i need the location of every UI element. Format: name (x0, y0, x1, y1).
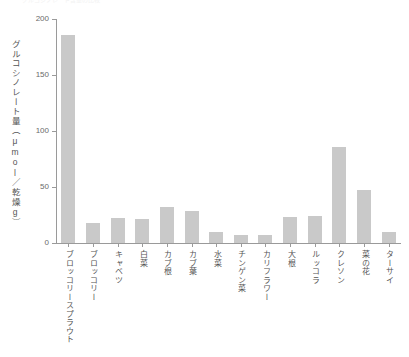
x-axis-labels: ブロッコリースプラウトブロッコリーキャベツ白菜カブ根カブ葉水菜チンゲン菜カリフラ… (56, 250, 401, 356)
bar[interactable] (258, 235, 272, 243)
bar[interactable] (357, 190, 371, 243)
bar[interactable] (234, 235, 248, 243)
y-axis-title: グルコシノレート量（μmol／乾燥g） (9, 40, 35, 240)
bar[interactable] (332, 147, 346, 243)
x-axis-label: キャベツ (113, 250, 123, 284)
x-axis-tick (118, 243, 119, 247)
y-axis-tick: 200 (52, 19, 56, 20)
bar[interactable] (111, 218, 125, 243)
bar[interactable] (308, 216, 322, 243)
x-axis-label: 白菜 (137, 250, 147, 267)
y-axis-tick: 100 (52, 131, 56, 132)
x-axis-tick (192, 243, 193, 247)
y-axis-tick-label: 150 (36, 70, 49, 79)
x-axis-label: ブロッコリー (88, 250, 98, 301)
x-axis-label: ブロッコリースプラウト (63, 250, 73, 344)
x-axis-tick (339, 243, 340, 247)
y-axis-tick-label: 50 (40, 182, 49, 191)
x-axis-label: ルッコラ (310, 250, 320, 284)
bar[interactable] (382, 232, 396, 243)
x-axis-label: カブ根 (162, 250, 172, 276)
x-axis-tick (93, 243, 94, 247)
x-axis-tick (315, 243, 316, 247)
y-axis-tick-label: 200 (36, 14, 49, 23)
x-axis-label: 大根 (285, 250, 295, 267)
y-axis-line (56, 19, 57, 243)
x-axis-tick (68, 243, 69, 247)
x-axis-label: カリフラワー (260, 250, 270, 301)
x-axis-tick (389, 243, 390, 247)
clipped-header-text: グルコシノレート含量の比較 (22, 0, 202, 4)
x-axis-tick (241, 243, 242, 247)
x-axis-line (56, 243, 401, 244)
x-axis-tick (216, 243, 217, 247)
y-axis-title-text: グルコシノレート量（μmol／乾燥g） (9, 40, 20, 227)
y-axis-tick: 150 (52, 75, 56, 76)
x-axis-tick (142, 243, 143, 247)
x-axis-label: カブ葉 (187, 250, 197, 276)
bar[interactable] (283, 217, 297, 243)
bar[interactable] (86, 223, 100, 243)
chart-figure: グルコシノレート含量の比較 グルコシノレート量（μmol／乾燥g） 050100… (0, 0, 409, 357)
x-axis-label: クレソン (334, 250, 344, 284)
x-axis-label: ターサイ (384, 250, 394, 284)
plot-area: 050100150200 (56, 19, 401, 243)
bar[interactable] (160, 207, 174, 243)
y-axis-tick: 0 (52, 243, 56, 244)
y-axis-tick-label: 100 (36, 126, 49, 135)
bar[interactable] (61, 35, 75, 243)
x-axis-label: 菜の花 (359, 250, 369, 276)
y-axis-tick-label: 0 (45, 238, 49, 247)
x-axis-tick (265, 243, 266, 247)
x-axis-tick (167, 243, 168, 247)
y-axis-tick: 50 (52, 187, 56, 188)
bar[interactable] (185, 211, 199, 243)
x-axis-label: チンゲン菜 (236, 250, 246, 293)
bar[interactable] (209, 232, 223, 243)
bar[interactable] (135, 219, 149, 243)
x-axis-tick (290, 243, 291, 247)
x-axis-tick (364, 243, 365, 247)
x-axis-label: 水菜 (211, 250, 221, 267)
